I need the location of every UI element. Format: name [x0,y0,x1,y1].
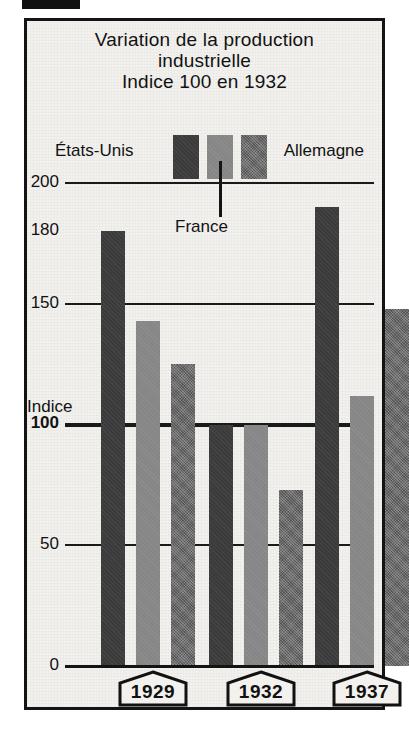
y-tick-label-0: 0 [50,655,59,675]
y-axis-caption: Indice [27,397,72,417]
year-tag-label: 1937 [330,681,404,703]
plot-area: 200180150100500Indice 192919321937 [27,21,382,707]
year-tag-1932[interactable]: 1932 [224,670,298,708]
bar-1937-etats-unis [315,207,339,666]
axis-baseline [65,665,374,668]
bar-1937-allemagne [385,309,409,666]
y-tick-label-150: 150 [31,292,59,312]
year-tag-1937[interactable]: 1937 [330,670,404,708]
bar-1929-etats-unis [101,231,125,666]
chart-figure: Variation de la production industrielle … [24,18,385,710]
corner-marker [22,0,80,9]
bar-1937-france [350,396,374,666]
bar-1932-france [244,425,268,667]
gridline-200: 200 [65,182,374,184]
y-tick-label-200: 200 [31,172,59,192]
bar-1932-etats-unis [209,425,233,667]
y-tick-label-180: 180 [31,220,59,240]
year-tag-label: 1929 [116,681,190,703]
bar-1929-allemagne [171,364,195,666]
bar-1932-allemagne [279,490,303,666]
bar-1929-france [136,321,160,666]
year-tag-label: 1932 [224,681,298,703]
year-tag-1929[interactable]: 1929 [116,670,190,708]
y-tick-label-50: 50 [40,534,59,554]
